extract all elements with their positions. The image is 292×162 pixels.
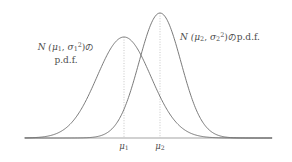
pdf-curve-dist-1 xyxy=(25,37,272,138)
normal-distributions-figure: N (μ1, σ12)の p.d.f. N (μ2, σ22)のp.d.f. μ… xyxy=(0,0,292,162)
plot-canvas xyxy=(0,0,292,162)
pdf-curve-dist-2 xyxy=(25,13,272,138)
